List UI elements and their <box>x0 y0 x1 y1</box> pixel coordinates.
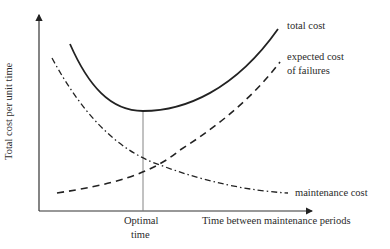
chart-plot <box>0 0 390 249</box>
maintenance-cost-label: maintenance cost <box>295 186 368 199</box>
x-axis-label: Time between maintenance periods <box>202 214 351 227</box>
failure-cost-label-2: of failures <box>287 64 330 77</box>
optimal-label-2: time <box>131 228 150 241</box>
optimal-label-1: Optimal <box>124 214 158 227</box>
y-axis-label: Total cost per unit time <box>3 63 14 160</box>
maintenance-cost-curve <box>52 58 288 193</box>
total-cost-label: total cost <box>287 19 325 32</box>
failure-cost-label-1: expected cost <box>287 50 344 63</box>
